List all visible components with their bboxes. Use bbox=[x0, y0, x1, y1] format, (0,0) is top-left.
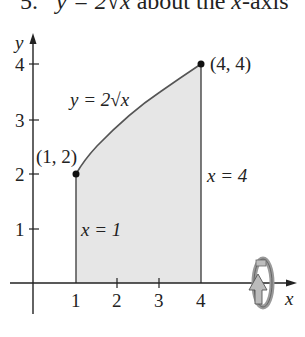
y-tick-label-4: 4 bbox=[15, 54, 25, 75]
point-label-4-4: (4, 4) bbox=[210, 53, 251, 75]
curve-label: y = 2√x bbox=[68, 89, 130, 110]
y-tick-label-1: 1 bbox=[15, 219, 25, 240]
x-axis-label: x bbox=[284, 288, 294, 309]
x-tick-label-1: 1 bbox=[71, 290, 81, 311]
y-tick-label-3: 3 bbox=[15, 110, 25, 131]
x-tick-label-2: 2 bbox=[112, 290, 122, 311]
y-axis-arrow-icon bbox=[30, 33, 37, 44]
x-tick-label-3: 3 bbox=[154, 290, 164, 311]
line-x-4-label: x = 4 bbox=[206, 165, 248, 186]
graph: 4 3 2 1 1 2 3 4 y x (1, 2) (4, 4) y = 2√… bbox=[0, 0, 305, 337]
line-x-1-label: x = 1 bbox=[80, 219, 121, 240]
point-4-4 bbox=[198, 61, 205, 68]
x-tick-label-4: 4 bbox=[196, 290, 206, 311]
point-label-1-2: (1, 2) bbox=[36, 146, 77, 168]
point-1-2 bbox=[73, 171, 80, 178]
x-axis-arrow-icon bbox=[286, 280, 297, 287]
y-axis-label: y bbox=[13, 32, 24, 53]
y-tick-label-2: 2 bbox=[15, 164, 25, 185]
